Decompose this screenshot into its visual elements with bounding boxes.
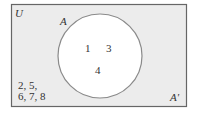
venn-diagram: U A 1 3 4 2, 5, 6, 7, 8 A' bbox=[0, 0, 199, 113]
set-a-label: A bbox=[59, 15, 67, 27]
element-4: 4 bbox=[95, 64, 101, 76]
universe-label: U bbox=[15, 7, 24, 19]
outside-elements-line2: 6, 7, 8 bbox=[18, 90, 46, 102]
set-a-circle bbox=[58, 14, 142, 98]
element-1: 1 bbox=[85, 42, 91, 54]
complement-label: A' bbox=[169, 91, 180, 103]
element-3: 3 bbox=[106, 42, 112, 54]
